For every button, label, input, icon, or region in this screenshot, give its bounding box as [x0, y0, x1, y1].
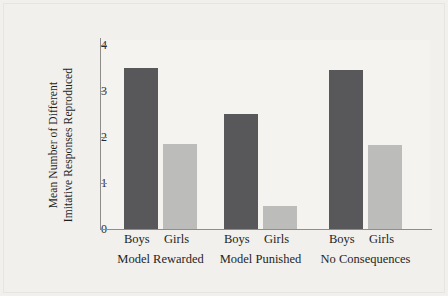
x-axis-sub-label-boys: Boys	[329, 232, 355, 247]
bar-no-consequences-boys	[329, 70, 363, 229]
y-axis-title: Mean Number of Different Imitative Respo…	[46, 45, 80, 245]
bar-no-consequences-girls	[368, 145, 402, 229]
x-axis-group-label: No Consequences	[296, 252, 436, 267]
x-axis-sub-label-boys: Boys	[124, 232, 150, 247]
x-axis-line	[100, 229, 432, 230]
bar-model-punished-girls	[263, 206, 297, 229]
bar-model-punished-boys	[224, 114, 258, 229]
y-axis-tick-mark	[101, 137, 107, 138]
figure-canvas: 43210 Mean Number of Different Imitative…	[0, 0, 448, 296]
x-axis-sub-label-girls: Girls	[369, 232, 394, 247]
x-axis-sub-label-row: BoysGirls	[296, 232, 436, 251]
y-axis-tick-mark	[101, 229, 107, 230]
x-axis-labels: BoysGirlsModel RewardedBoysGirlsModel Pu…	[100, 232, 432, 276]
x-axis-sub-label-girls: Girls	[264, 232, 289, 247]
y-axis-title-line2: Imitative Responses Reproduced	[61, 45, 76, 245]
y-axis-tick-mark	[101, 91, 107, 92]
x-axis-sub-label-boys: Boys	[224, 232, 250, 247]
y-axis-tick-mark	[101, 45, 107, 46]
x-axis-group-no-consequences: BoysGirlsNo Consequences	[296, 232, 436, 251]
bar-model-rewarded-boys	[124, 68, 158, 229]
y-axis-title-line1: Mean Number of Different	[46, 45, 61, 245]
x-axis-sub-label-girls: Girls	[164, 232, 189, 247]
bar-model-rewarded-girls	[163, 144, 197, 229]
y-axis-tick-mark	[101, 183, 107, 184]
bars-layer	[100, 38, 432, 229]
